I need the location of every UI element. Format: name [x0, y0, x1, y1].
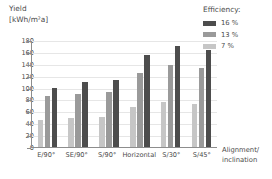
- legend-item-label: 7 %: [221, 42, 234, 50]
- bar-group: [99, 41, 119, 147]
- bar: [113, 80, 119, 147]
- plot-area: [31, 41, 217, 148]
- x-axis-tick-label: E/90°: [31, 151, 61, 165]
- bar: [52, 88, 58, 147]
- bar: [144, 55, 150, 147]
- bar: [38, 120, 44, 147]
- bar: [82, 82, 88, 147]
- bar: [68, 118, 74, 147]
- x-axis-tick-label: SE/90°: [61, 151, 91, 165]
- legend-items: 16 %13 %7 %: [203, 18, 271, 53]
- legend-swatch-icon: [203, 44, 216, 49]
- bar-chart: Yield [kWh/m²a] 020406080100120140160180…: [0, 0, 272, 179]
- bar: [106, 92, 112, 147]
- bar-group: [68, 41, 88, 147]
- x-axis-tick-label: Horizontal: [122, 151, 156, 165]
- bar: [192, 104, 198, 147]
- bar: [99, 117, 105, 147]
- legend-swatch-icon: [203, 32, 216, 37]
- bar: [206, 50, 212, 147]
- bar-group: [161, 41, 181, 147]
- legend-item: 7 %: [203, 41, 271, 53]
- x-axis-title: Alignment/ inclination: [222, 146, 259, 165]
- x-axis-tick-label: S/90°: [92, 151, 122, 165]
- y-axis-tick-mark: [27, 148, 31, 149]
- bar: [45, 96, 51, 147]
- bar: [137, 73, 143, 147]
- legend: Efficiency: 16 %13 %7 %: [203, 5, 271, 52]
- legend-item-label: 13 %: [221, 31, 238, 39]
- bar: [168, 65, 174, 147]
- legend-item-label: 16 %: [221, 19, 238, 27]
- bar: [175, 46, 181, 147]
- y-axis-title: Yield [kWh/m²a]: [9, 4, 48, 25]
- bar: [130, 107, 136, 147]
- x-axis-tick-labels: E/90°SE/90°S/90°HorizontalS/30°S/45°: [31, 151, 217, 165]
- bar: [75, 94, 81, 148]
- x-axis-tick-label: S/30°: [156, 151, 186, 165]
- bar-group: [192, 41, 212, 147]
- bar-group: [130, 41, 150, 147]
- bar-groups-container: [32, 41, 217, 147]
- bar: [199, 68, 205, 147]
- legend-title: Efficiency:: [203, 5, 271, 14]
- legend-item: 13 %: [203, 29, 271, 41]
- bar-group: [38, 41, 58, 147]
- legend-swatch-icon: [203, 21, 216, 26]
- x-axis-tick-label: S/45°: [187, 151, 217, 165]
- legend-item: 16 %: [203, 18, 271, 30]
- bar: [161, 102, 167, 147]
